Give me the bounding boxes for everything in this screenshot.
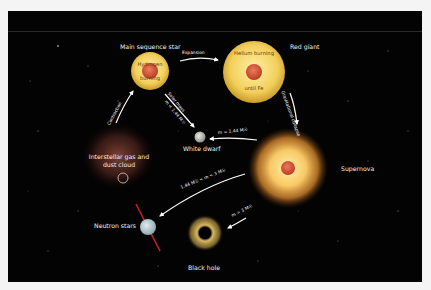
gas-cloud-label-line1: Interstellar gas and xyxy=(80,154,158,160)
black-hole-center xyxy=(199,227,211,239)
red-giant-inner-bottom: until Fe xyxy=(230,86,278,91)
neutron-stars-label: Neutron stars xyxy=(94,223,136,229)
diagram-frame: Main sequence star Hydrogen burning Red … xyxy=(8,11,422,282)
expansion-label: Expansion xyxy=(182,51,205,55)
gas-cloud-label-line2: dust cloud xyxy=(80,162,158,168)
arrow-supernova-black-hole xyxy=(228,218,246,228)
white-dwarf-label: White dwarf xyxy=(183,146,220,152)
supernova-core xyxy=(281,161,295,175)
arrow-expansion xyxy=(180,58,218,61)
white-dwarf xyxy=(195,132,206,143)
neutron-star xyxy=(140,219,156,235)
main-sequence-inner-top: Hydrogen xyxy=(136,62,164,67)
red-giant-label: Red giant xyxy=(290,44,320,50)
black-hole-label: Black hole xyxy=(188,265,220,271)
red-giant-core xyxy=(246,64,262,80)
red-giant-inner-top: Helium burning xyxy=(230,51,278,56)
main-sequence-label: Main sequence star xyxy=(120,44,181,50)
arrow-supernova-white-dwarf xyxy=(210,138,257,140)
supernova-label: Supernova xyxy=(341,166,374,172)
main-sequence-inner-bottom: burning xyxy=(136,76,164,81)
